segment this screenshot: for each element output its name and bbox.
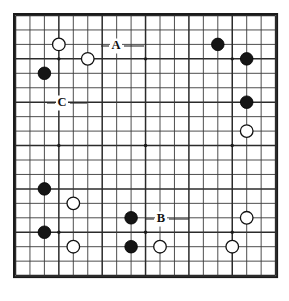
star-point — [144, 231, 147, 234]
white-stone — [226, 240, 239, 253]
star-point — [231, 144, 234, 147]
white-stone — [67, 197, 80, 210]
black-stone — [212, 38, 225, 51]
star-point — [57, 144, 60, 147]
diagram-background — [0, 0, 289, 301]
star-point — [231, 231, 234, 234]
black-stone — [240, 96, 253, 109]
white-stone — [67, 240, 80, 253]
black-stone — [38, 183, 51, 196]
star-point — [57, 231, 60, 234]
black-stone — [38, 226, 51, 239]
star-point — [231, 57, 234, 60]
white-stone — [240, 212, 253, 225]
white-stone — [154, 240, 167, 253]
board-marker-c: C — [57, 95, 66, 109]
white-stone — [81, 53, 94, 66]
star-point — [144, 144, 147, 147]
go-board-svg: ABC — [0, 0, 289, 301]
black-stone — [38, 67, 51, 80]
black-stone — [240, 53, 253, 66]
board-marker-b: B — [157, 211, 165, 225]
white-stone — [53, 38, 66, 51]
star-point — [144, 57, 147, 60]
go-board-diagram: ABC — [0, 0, 289, 301]
white-stone — [240, 125, 253, 138]
black-stone — [125, 240, 138, 253]
star-point — [57, 57, 60, 60]
board-marker-a: A — [111, 38, 120, 52]
black-stone — [125, 212, 138, 225]
